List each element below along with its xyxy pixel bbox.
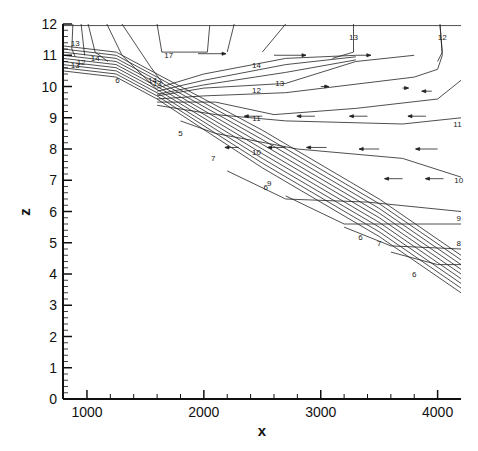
y-tick-label: 12 xyxy=(41,16,57,32)
contour-label: 10 xyxy=(454,176,463,185)
y-axis-title: z xyxy=(16,208,33,216)
contour-label: 11 xyxy=(453,120,462,129)
axis-ticks: 10002000300040000123456789101112 xyxy=(41,16,453,420)
x-tick-label: 1000 xyxy=(71,404,102,420)
contour-labels: 1312131461714131413121110131211109857696… xyxy=(71,33,464,280)
y-tick-label: 8 xyxy=(49,141,57,157)
contour-label: 17 xyxy=(164,51,173,60)
contour-label: 13 xyxy=(71,61,80,70)
contour-label: 7 xyxy=(377,239,382,248)
contour-label: 13 xyxy=(275,79,284,88)
contour-label: 14 xyxy=(91,54,100,63)
y-tick-label: 5 xyxy=(49,235,57,251)
y-tick-label: 4 xyxy=(49,266,57,282)
y-tick-label: 10 xyxy=(41,79,57,95)
contour-label: 6 xyxy=(412,270,417,279)
contour-label: 13 xyxy=(71,39,80,48)
y-tick-label: 3 xyxy=(49,297,57,313)
contour-label: 13 xyxy=(153,79,162,88)
contour-label: 8 xyxy=(456,239,461,248)
y-tick-label: 6 xyxy=(49,204,57,220)
y-tick-label: 7 xyxy=(49,172,57,188)
y-tick-label: 0 xyxy=(49,391,57,407)
y-tick-label: 1 xyxy=(49,360,57,376)
x-axis-title: x xyxy=(258,422,267,439)
contour-label: 10 xyxy=(252,148,261,157)
contour-label: 9 xyxy=(267,179,272,188)
contour-label: 9 xyxy=(456,214,461,223)
contour-label: 6 xyxy=(115,76,120,85)
y-tick-label: 9 xyxy=(49,110,57,126)
contour-lines xyxy=(63,24,461,293)
contour-label: 7 xyxy=(211,154,216,163)
contour-label: 11 xyxy=(252,114,261,123)
contour-label: 12 xyxy=(438,33,447,42)
x-tick-label: 2000 xyxy=(188,404,219,420)
x-tick-label: 4000 xyxy=(422,404,453,420)
contour-label: 6 xyxy=(358,233,363,242)
y-tick-label: 2 xyxy=(49,329,57,345)
contour-label: 5 xyxy=(178,129,183,138)
y-tick-label: 11 xyxy=(42,47,57,63)
x-tick-label: 3000 xyxy=(305,404,336,420)
contour-label: 12 xyxy=(252,86,261,95)
contour-chart: 1312131461714131413121110131211109857696… xyxy=(0,0,478,451)
contour-label: 14 xyxy=(252,61,261,70)
contour-label: 13 xyxy=(349,33,358,42)
